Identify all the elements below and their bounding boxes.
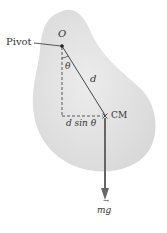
distance-label: d xyxy=(90,74,96,84)
vector-arrow-icon: → xyxy=(103,198,109,205)
angle-label: θ xyxy=(65,62,70,71)
origin-label: O xyxy=(58,29,66,39)
pivot-label: Pivot xyxy=(6,37,32,47)
lever-arm-label: d sin θ xyxy=(66,119,96,128)
diagram-graphics xyxy=(0,0,167,233)
force-label: mg xyxy=(97,206,111,215)
rigid-body-shape xyxy=(33,10,156,172)
physical-pendulum-diagram: Pivot O θ d d sin θ CM mg → xyxy=(0,0,167,233)
cm-label: CM xyxy=(111,111,127,120)
pivot-point xyxy=(60,44,64,48)
